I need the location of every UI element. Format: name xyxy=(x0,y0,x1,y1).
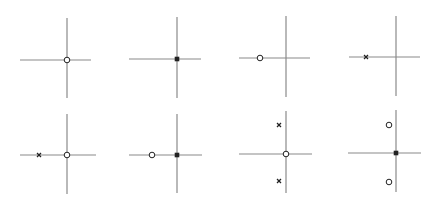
double-pole-zero-square-icon xyxy=(175,57,180,62)
zero-circle-icon xyxy=(64,57,70,63)
panel-6 xyxy=(129,114,202,193)
zero-circle-icon xyxy=(386,179,392,185)
panel-5 xyxy=(20,114,96,194)
zero-circle-icon xyxy=(149,152,155,158)
pole-cross-icon xyxy=(277,179,281,183)
zero-circle-icon xyxy=(283,151,289,157)
panel-4 xyxy=(349,16,420,96)
panel-8 xyxy=(348,110,421,192)
pole-zero-diagram-grid xyxy=(0,0,437,205)
zero-circle-icon xyxy=(386,122,392,128)
zero-circle-icon xyxy=(257,55,263,61)
panel-1 xyxy=(20,18,91,98)
zero-circle-icon xyxy=(64,152,70,158)
pole-cross-icon xyxy=(277,123,281,127)
panel-7 xyxy=(239,111,312,193)
panel-3 xyxy=(239,16,310,97)
panel-2 xyxy=(129,17,201,98)
double-pole-zero-square-icon xyxy=(394,151,399,156)
double-pole-zero-square-icon xyxy=(175,153,180,158)
